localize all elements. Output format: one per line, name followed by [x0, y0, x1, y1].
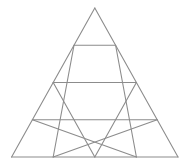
triangle-grid-diagram — [0, 0, 185, 164]
diagonal-line — [116, 45, 137, 157]
diagonal-line — [32, 120, 136, 157]
grid-lines — [12, 8, 178, 157]
